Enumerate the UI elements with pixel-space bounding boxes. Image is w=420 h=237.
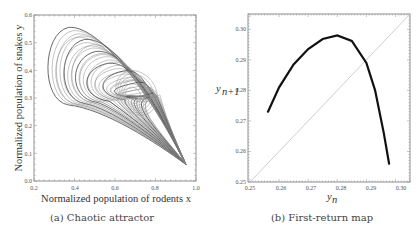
y-axis-label-b: y n+1	[215, 83, 240, 97]
x-tick-labels-a: 0.2 0.4 0.6 0.8 1.0	[30, 185, 200, 191]
y-tick-labels-a: 0.0 0.1 0.2 0.3 0.4 0.5 0.6	[25, 12, 33, 184]
caption-a: (a) Chaotic attractor	[50, 212, 154, 223]
svg-text:n: n	[332, 194, 337, 205]
svg-text:0.29: 0.29	[366, 185, 377, 191]
svg-text:0.6: 0.6	[25, 12, 33, 18]
svg-text:0.4: 0.4	[71, 185, 79, 191]
panel-b-first-return-map: 0.25 0.26 0.27 0.28 0.29 0.30 0.25 0.26 …	[215, 14, 410, 223]
svg-text:0.5: 0.5	[25, 40, 33, 46]
svg-text:0.30: 0.30	[396, 185, 407, 191]
plot-frame-a	[34, 15, 196, 181]
svg-text:0.26: 0.26	[276, 185, 287, 191]
svg-text:0.29: 0.29	[236, 57, 247, 63]
caption-b: (b) First-return map	[271, 212, 373, 223]
svg-text:0.25: 0.25	[236, 179, 247, 185]
svg-text:n+1: n+1	[222, 86, 240, 97]
svg-text:0.3: 0.3	[25, 95, 33, 101]
panel-a-chaotic-attractor: 0.2 0.4 0.6 0.8 1.0 0.0 0.1 0.2 0.3 0.4 …	[13, 12, 200, 223]
y-axis-label-a: Normalized population of snakes y	[13, 24, 24, 172]
svg-text:0.26: 0.26	[236, 148, 247, 154]
attractor-trajectory	[48, 27, 186, 164]
tick-marks-a	[34, 15, 196, 181]
figure: 0.2 0.4 0.6 0.8 1.0 0.0 0.1 0.2 0.3 0.4 …	[0, 0, 420, 237]
svg-text:0.30: 0.30	[236, 26, 247, 32]
svg-text:0.27: 0.27	[236, 118, 247, 124]
x-tick-labels-b: 0.25 0.26 0.27 0.28 0.29 0.30	[245, 185, 407, 191]
svg-text:0.2: 0.2	[30, 185, 38, 191]
svg-text:0.0: 0.0	[25, 178, 33, 184]
y-tick-labels-b: 0.25 0.26 0.27 0.28 0.29 0.30	[236, 26, 247, 185]
x-axis-label-b: y n	[326, 191, 337, 205]
svg-text:0.1: 0.1	[25, 151, 33, 157]
svg-text:0.27: 0.27	[306, 185, 317, 191]
svg-text:1.0: 1.0	[192, 185, 200, 191]
svg-text:0.28: 0.28	[336, 185, 347, 191]
svg-text:y: y	[215, 83, 221, 94]
x-axis-label-a: Normalized population of rodents x	[41, 193, 192, 204]
svg-text:0.4: 0.4	[25, 68, 33, 74]
svg-text:0.8: 0.8	[151, 185, 159, 191]
svg-text:0.6: 0.6	[111, 185, 119, 191]
svg-text:0.2: 0.2	[25, 123, 33, 129]
svg-text:0.25: 0.25	[245, 185, 256, 191]
